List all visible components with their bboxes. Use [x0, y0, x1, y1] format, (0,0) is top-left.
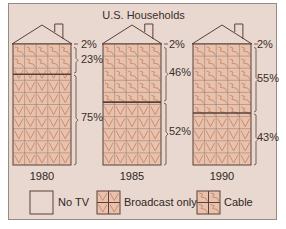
year-label-1990: 1990 — [192, 170, 252, 182]
pct-1990-cable: 55% — [257, 72, 279, 84]
legend-label-broadcast: Broadcast only — [124, 196, 197, 208]
pct-1990-broadcast: 43% — [257, 131, 279, 143]
pct-1985-cable: 46% — [169, 66, 191, 78]
pct-1985-broadcast: 52% — [169, 125, 191, 137]
house-1985 — [102, 24, 168, 165]
pct-1990-notv: 2% — [257, 38, 273, 50]
houses-chart — [0, 0, 286, 229]
pct-1985-notv: 2% — [169, 38, 185, 50]
pct-1980-notv: 2% — [81, 38, 97, 50]
year-label-1980: 1980 — [12, 170, 72, 182]
legend-label-no-tv: No TV — [58, 196, 89, 208]
house-1980 — [12, 24, 78, 165]
pct-1980-cable: 23% — [81, 53, 103, 65]
house-1990 — [192, 24, 258, 165]
legend-label-cable: Cable — [224, 196, 253, 208]
year-label-1985: 1985 — [102, 170, 162, 182]
pct-1980-broadcast: 75% — [81, 111, 103, 123]
legend-swatch-no-tv — [30, 191, 53, 214]
